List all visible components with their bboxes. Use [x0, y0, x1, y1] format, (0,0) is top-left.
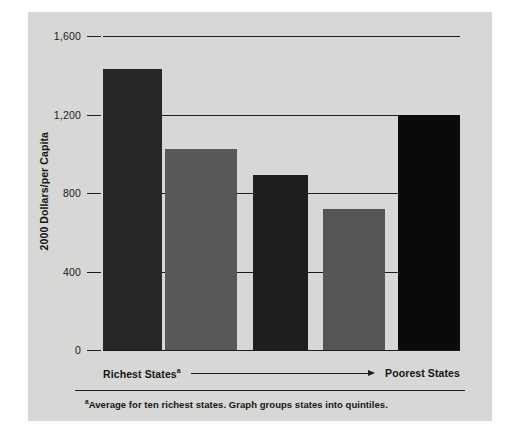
- bar-3: [253, 175, 308, 350]
- y-tick-label-1200: 1,200: [54, 109, 81, 121]
- x-axis-left-label: Richest Statesa: [103, 367, 181, 380]
- footnote-marker: a: [85, 398, 89, 405]
- x-axis-right-label: Poorest States: [385, 367, 460, 379]
- gridline-0: [103, 350, 460, 351]
- y-tick-label-0: 0: [75, 344, 81, 356]
- y-tick-mark-400: [87, 272, 101, 273]
- y-tick-label-400: 400: [63, 266, 81, 278]
- x-axis-left-label-superscript: a: [177, 367, 181, 374]
- bar-5: [398, 115, 460, 351]
- y-tick-label-800: 800: [63, 187, 81, 199]
- bars-group: [103, 36, 460, 350]
- x-axis-annotation: Richest Statesa Poorest States: [103, 360, 460, 386]
- y-axis-title: 2000 Dollars/per Capita: [38, 132, 54, 250]
- bar-2: [165, 149, 237, 350]
- y-tick-mark-1200: [87, 115, 101, 116]
- y-tick-mark-800: [87, 193, 101, 194]
- y-tick-mark-1600: [87, 36, 101, 37]
- footnote-text: aAverage for ten richest states. Graph g…: [85, 398, 475, 410]
- plot-area: 04008001,2001,600: [103, 36, 460, 350]
- bar-4: [323, 209, 385, 350]
- y-tick-label-1600: 1,600: [54, 30, 81, 42]
- figure-panel: 2000 Dollars/per Capita 04008001,2001,60…: [28, 12, 492, 421]
- y-tick-mark-0: [87, 350, 101, 351]
- footnote-divider: [75, 390, 465, 391]
- bar-1: [103, 69, 162, 350]
- right-arrow-icon: [191, 368, 375, 378]
